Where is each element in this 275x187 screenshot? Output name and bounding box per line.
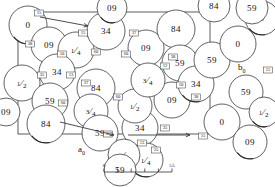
atom-height-label: 0 [235,39,240,49]
structure-diagram-svg: 0091⁄43409341⁄25984843⁄459341⁄209091⁄484… [0,0,275,187]
atom-height-label: 34 [52,67,62,77]
atom-height-label: 09 [107,3,117,13]
bond-distance-label: 37 [132,30,137,35]
bond-distance-label: 60 [94,49,99,54]
bond-distance-label: 60 [61,100,66,105]
bond-distance-label: 60 [124,51,129,56]
atom-height-label: 84 [41,119,51,129]
atom-height-label: 0 [219,117,224,127]
bond-distance-label: 35 [40,72,45,77]
bond-distance-label: 55 [154,147,159,152]
bond-distance-label: 38 [28,41,33,46]
bond-distance-label: 10 [60,51,65,56]
bond-distance-label: 15 [266,67,271,72]
atom-height-label: 59 [45,96,55,106]
atom-height-label: 59 [241,87,251,97]
atom-height-label: 34 [191,79,201,89]
bond-distance-label: 35 [163,125,168,130]
atom-height-label: 34 [101,26,111,36]
bond-distance-label: 13 [69,72,74,77]
atom-height-label: 09 [1,107,11,117]
atom-height-label: 84 [91,83,101,93]
bond-distance-label: 60 [116,94,121,99]
bond-distance-label: 15 [37,10,42,15]
bond-distance-label: 10 [179,82,184,87]
bond-distance-label: 13 [140,140,145,145]
atom-height-label: 09 [245,137,255,147]
atom-height-label: 59 [115,165,125,175]
crystal-packing-figure: 0091⁄43409341⁄25984843⁄459341⁄209091⁄484… [0,0,275,187]
scale-label-right: 5Å [169,163,175,168]
atom-height-label: 84 [171,24,181,34]
atom-height-label: 09 [44,40,54,50]
axis-label-a0: a0 [78,144,85,156]
atom-height-label: 09 [167,95,177,105]
atom-height-label: 34 [135,123,145,133]
atom-height-label: 09 [141,43,151,53]
atom-height-label: 59 [247,3,257,13]
bond-distance-label: 38 [194,94,199,99]
atom-height-label: 84 [209,1,219,11]
bond-distance-label: 12 [163,63,168,68]
atom-height-label: 59 [207,55,217,65]
axis-label-b0: b0 [238,62,246,74]
bond-distance-label: 37 [84,80,89,85]
bond-distance-label: 15 [201,133,206,138]
bond-distance-label: 38 [171,54,176,59]
atom-circles-group: 0091⁄43409341⁄25984843⁄459341⁄209091⁄484… [0,0,275,186]
atom-height-label: 0 [25,20,30,30]
bond-distance-label: 15 [81,30,86,35]
